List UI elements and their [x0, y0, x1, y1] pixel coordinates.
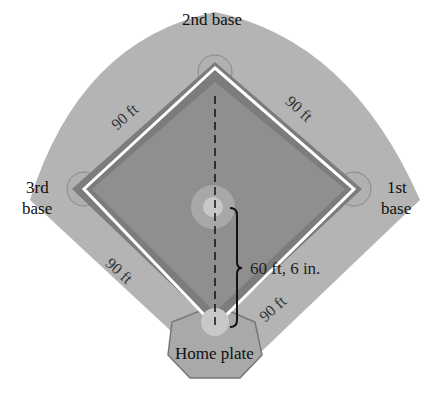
- baseball-diamond-diagram: 2nd base 3rd base 1st base Home plate 60…: [0, 0, 431, 397]
- pitchers-mound-inner: [203, 197, 223, 217]
- home-plate-label: Home plate: [175, 344, 254, 363]
- second-base-label: 2nd base: [182, 10, 242, 29]
- first-base-label-line1: 1st: [387, 178, 407, 197]
- field-graphic: [0, 0, 431, 397]
- third-base-label-line1: 3rd: [26, 178, 49, 197]
- pitch-distance-label: 60 ft, 6 in.: [250, 259, 320, 278]
- third-base-label-line2: base: [22, 199, 52, 218]
- first-base-label-line2: base: [381, 199, 411, 218]
